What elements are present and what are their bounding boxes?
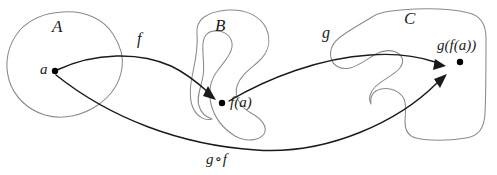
compose-operator-icon: ∘ (214, 151, 223, 167)
point-fa-dot (219, 100, 225, 106)
function-composition-diagram: A B C a f(a) g(f(a)) f g g∘f (0, 0, 497, 175)
map-label-f: f (137, 31, 141, 47)
compose-label-f: f (223, 151, 227, 167)
set-a-outline (7, 12, 123, 117)
arrow-g-compose-f-head (434, 74, 447, 88)
set-label-b: B (215, 17, 225, 34)
map-label-g-compose-f: g∘f (206, 152, 227, 167)
set-b-outline (190, 10, 269, 140)
point-label-a: a (40, 62, 48, 77)
point-label-fa: f(a) (230, 95, 252, 110)
point-a-dot (52, 68, 58, 74)
arrow-g-compose-f (56, 75, 437, 150)
set-c-outline (331, 9, 486, 140)
set-label-a: A (52, 18, 62, 35)
compose-label-g: g (206, 151, 214, 167)
point-label-gfa: g(f(a)) (437, 38, 476, 53)
set-label-c: C (404, 10, 415, 27)
arrow-g-head (433, 59, 446, 70)
map-label-g: g (322, 25, 330, 41)
arrow-f (57, 56, 209, 93)
arrow-f-head (203, 86, 216, 100)
diagram-canvas (0, 0, 497, 175)
point-gfa-dot (457, 59, 463, 65)
